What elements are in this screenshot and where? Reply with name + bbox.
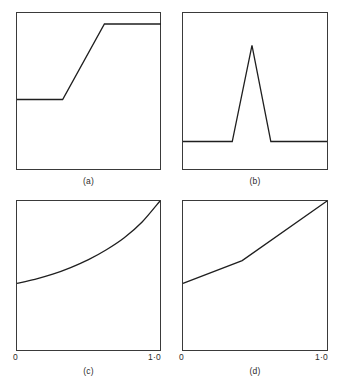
panel-c-frame bbox=[17, 201, 161, 351]
panel-a-frame bbox=[17, 13, 161, 170]
panel-a-plot bbox=[16, 12, 161, 170]
panel-d-curve bbox=[183, 201, 327, 283]
panel-c-curve bbox=[17, 201, 160, 283]
panel-b-caption: (b) bbox=[182, 176, 328, 186]
panel-c bbox=[16, 200, 161, 351]
panel-c-plot bbox=[16, 200, 161, 351]
panel-c-caption: (c) bbox=[16, 366, 161, 376]
panel-b-plot bbox=[182, 12, 328, 170]
panel-c-tick-label-left: 0 bbox=[13, 352, 18, 362]
panel-d-caption: (d) bbox=[182, 366, 328, 376]
panel-d-plot bbox=[182, 200, 328, 351]
panel-a-caption: (a) bbox=[16, 176, 161, 186]
panel-c-tick-label-right: 1·0 bbox=[148, 352, 161, 362]
panel-d-tick-label-left: 0 bbox=[179, 352, 184, 362]
panel-b-curve bbox=[183, 45, 327, 141]
panel-b-frame bbox=[183, 13, 328, 170]
panel-d-tick-label-right: 1·0 bbox=[315, 352, 328, 362]
figure-container: (a) (b) (c) (d) 0 1·0 0 1·0 bbox=[0, 0, 340, 389]
panel-b bbox=[182, 12, 328, 170]
panel-a-curve bbox=[17, 24, 161, 100]
panel-d bbox=[182, 200, 328, 351]
panel-a bbox=[16, 12, 161, 170]
